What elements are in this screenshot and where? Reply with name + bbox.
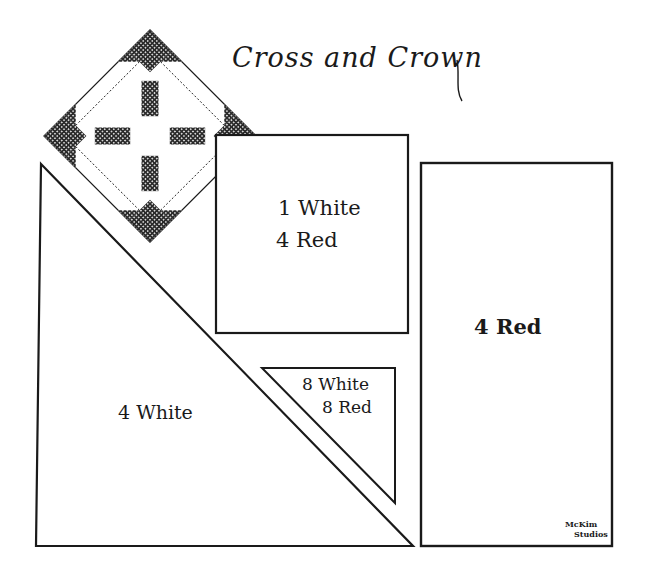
pattern-drawing (0, 0, 645, 575)
signature-line1: McKim (565, 520, 597, 528)
small-triangle-label-white: 8 White (302, 376, 369, 393)
square-label-red: 4 Red (276, 230, 338, 251)
small-triangle-label-red: 8 Red (322, 399, 372, 416)
large-triangle-label: 4 White (118, 403, 193, 422)
pattern-title: Cross and Crown (232, 44, 483, 71)
signature-line2: Studios (574, 530, 608, 538)
rectangle-piece (421, 163, 612, 546)
rectangle-label: 4 Red (474, 316, 541, 337)
square-label-white: 1 White (278, 198, 361, 219)
